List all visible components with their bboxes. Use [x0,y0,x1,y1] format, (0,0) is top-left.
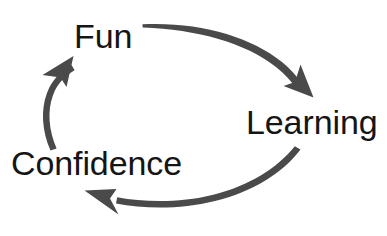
arrow-learning-to-confidence-head [85,189,119,215]
arrow-fun-to-learning [143,24,314,98]
node-label-learning: Learning [246,105,378,139]
cycle-diagram: Fun Learning Confidence [0,0,387,236]
node-label-confidence: Confidence [11,146,182,180]
arrow-fun-to-learning-shaft [143,24,303,88]
arrow-confidence-to-fun [43,56,75,151]
node-label-fun: Fun [74,19,132,53]
arrow-confidence-to-fun-shaft [43,65,75,151]
